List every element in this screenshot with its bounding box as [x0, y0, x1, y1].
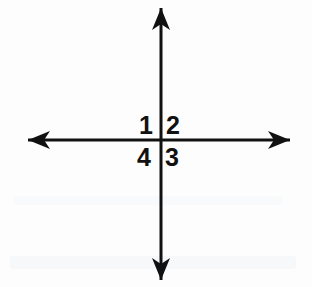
quadrant-label-4: 4 — [137, 145, 151, 170]
quadrant-label-1: 1 — [139, 113, 153, 138]
quadrant-diagram: 1 2 3 4 — [0, 0, 312, 287]
axes-drawing — [0, 0, 312, 287]
quadrant-label-3: 3 — [165, 145, 179, 170]
quadrant-label-2: 2 — [166, 113, 180, 138]
